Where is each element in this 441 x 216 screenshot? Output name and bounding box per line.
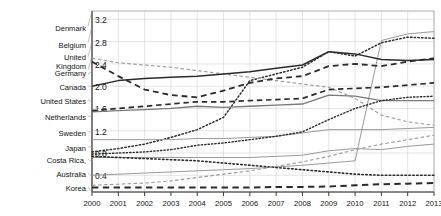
series-label-sweden: Sweden [59,129,86,138]
label-leader-line [88,71,92,74]
series-label-japan: Japan [65,144,86,153]
plot-frame [92,11,434,192]
series-label-australia: Australia [56,170,86,179]
x-axis-tick-label: 2000 [84,199,101,208]
chart-container: 0.40.81.21.62.02.42.83.22000200120022003… [0,0,441,216]
label-leader-line [88,41,92,57]
x-axis-tick-label: 2004 [189,199,206,208]
x-axis-tick-label: 2005 [215,199,232,208]
series-label-united: United [64,53,86,62]
label-leader-line [88,100,92,102]
series-label-denmark: Denmark [55,24,86,33]
x-axis-tick-label: 2003 [162,199,179,208]
x-axis-tick-label: 2001 [110,199,127,208]
x-axis-tick-label: 2009 [320,199,337,208]
label-leader-line [88,173,92,177]
label-leader-line [88,26,92,43]
series-label-germany: Germany [55,69,86,78]
y-axis-tick-label: 3.2 [95,15,107,25]
series-label-belgium: Belgium [59,41,86,50]
label-leader-line [88,187,92,192]
label-leader-line [88,116,92,117]
label-leader-line [88,11,92,26]
y-axis-tick-label: 1.2 [95,127,107,137]
x-axis-tick-label: 2012 [399,199,416,208]
y-axis-tick-label: 2.8 [95,38,107,48]
x-axis-tick-label: 2011 [373,199,389,208]
x-axis-tick-label: 2002 [136,199,153,208]
series-label-canada: Canada [59,83,86,92]
y-axis-tick-label: 0.4 [95,171,107,181]
series-label-costa-rica-: Costa Rica, [47,156,86,165]
x-axis-tick-label: 2007 [268,199,285,208]
x-axis-tick-label: 2008 [294,199,311,208]
line-chart: 0.40.81.21.62.02.42.83.22000200120022003… [0,0,441,216]
series-label-netherlands: Netherlands [45,113,86,122]
x-axis-tick-label: 2013 [426,199,441,208]
label-leader-line [88,159,92,162]
x-axis-tick-label: 2010 [347,199,364,208]
series-label-united-states: United States [40,97,86,106]
label-leader-line [88,56,92,70]
series-label-korea: Korea [66,184,87,193]
x-axis-tick-label: 2006 [241,199,258,208]
